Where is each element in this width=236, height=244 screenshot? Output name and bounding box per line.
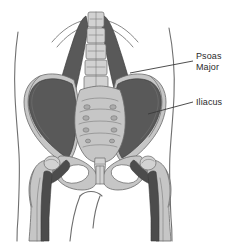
label-psoas-major-line1: Psoas [196, 51, 222, 61]
label-iliacus: Iliacus [196, 97, 223, 107]
label-psoas-major-line2: Major [196, 62, 219, 72]
label-iliacus-line1: Iliacus [196, 97, 223, 107]
label-psoas-major: Psoas Major [196, 51, 222, 72]
anatomy-figure: Psoas Major Iliacus [0, 0, 236, 244]
anatomy-illustration: Psoas Major Iliacus [0, 0, 236, 244]
